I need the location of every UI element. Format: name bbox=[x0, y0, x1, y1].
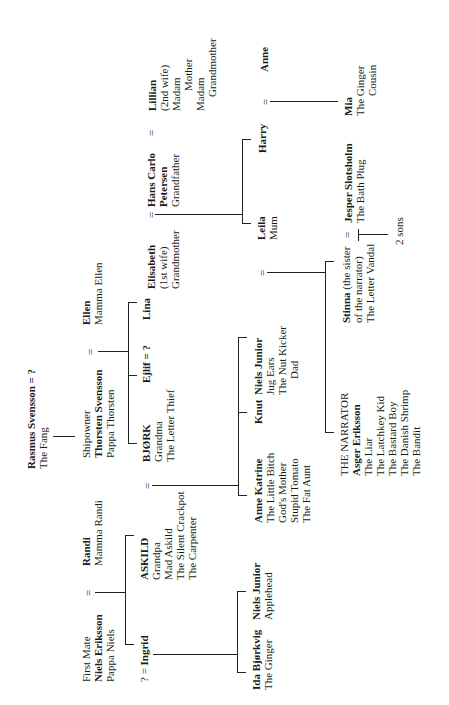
person-narrator: THE NARRATOR Asger Eriksson The Liar The… bbox=[338, 390, 422, 476]
niels-children-bracket bbox=[125, 535, 126, 644]
person-bjork: BJØRK Grandma The Letter Thief bbox=[140, 390, 176, 462]
person-ellen: Ellen Mamma Ellen bbox=[80, 262, 104, 325]
marriage-stinna-jesper: = bbox=[341, 232, 353, 238]
marriage-niels-leila: = bbox=[256, 270, 268, 276]
name: Ellen bbox=[80, 262, 92, 325]
person-leila: Leila Mum bbox=[255, 216, 279, 240]
niels-randi-children-line bbox=[95, 592, 125, 593]
name: Anne Katrine bbox=[252, 453, 264, 523]
name: Ingrid bbox=[138, 635, 150, 665]
thorsten-children-bracket bbox=[128, 302, 129, 443]
tick-ida bbox=[237, 672, 246, 673]
tick-ejlif bbox=[128, 375, 137, 376]
name: Niels Junior bbox=[250, 563, 262, 620]
name: Ejlif = ? bbox=[140, 345, 152, 383]
name: Anne bbox=[258, 47, 270, 72]
askild-bjork-children-bracket bbox=[238, 337, 239, 495]
stinna-jesper-child-line bbox=[358, 229, 359, 241]
person-anne-katrine: Anne Katrine The Little Bitch God's Moth… bbox=[252, 453, 312, 523]
name: Jesper Slotsholm bbox=[342, 143, 354, 223]
person-niels-eriksson: First Mate Niels Eriksson Pappa Niels bbox=[80, 614, 116, 682]
name: Hans Carlo bbox=[145, 153, 157, 207]
person-lillian: Lillian (2nd wife) Madam Mother Madam Gr… bbox=[146, 38, 218, 111]
name: Harry bbox=[256, 124, 268, 153]
name: Rasmus Svensson = ? bbox=[25, 369, 37, 469]
person-hans-carlo: Hans Carlo Petersen Grandfather bbox=[145, 153, 181, 207]
tick-narrator bbox=[325, 432, 334, 433]
person-lina: Lina bbox=[140, 298, 152, 320]
ingrid-children-bracket bbox=[237, 591, 238, 672]
person-niels-junior-applehead: Niels Junior Applehead bbox=[250, 563, 274, 620]
name: Stinna bbox=[340, 292, 352, 323]
name: Niels Eriksson bbox=[92, 614, 104, 682]
tick-leila bbox=[242, 223, 251, 224]
person-mia: Mia The Ginger Cousin bbox=[342, 65, 378, 116]
elisabeth-hans-children-line bbox=[155, 214, 242, 215]
stinna-jesper-sons-line bbox=[358, 234, 388, 235]
name: THE NARRATOR bbox=[338, 390, 350, 476]
niels-leila-children-bracket bbox=[325, 261, 326, 432]
harry-anne-children-line bbox=[270, 101, 338, 102]
thorsten-ellen-children-line bbox=[98, 351, 128, 352]
name: Lina bbox=[140, 298, 152, 320]
tick-askild bbox=[125, 535, 134, 536]
person-rasmus: Rasmus Svensson = ? The Fang bbox=[25, 369, 49, 469]
marriage-askild-bjork: = bbox=[141, 483, 153, 489]
tick-niels-junior bbox=[238, 337, 247, 338]
hans-children-bracket bbox=[242, 139, 243, 223]
person-niels-junior: Niels Junior Jug Ears The Nut Kicker Dad bbox=[252, 326, 300, 395]
tick-ingrid bbox=[125, 644, 134, 645]
person-ejlif: Ejlif = ? bbox=[140, 345, 152, 383]
person-jesper: Jesper Slotsholm The Bath Plug bbox=[342, 143, 366, 223]
person-harry: Harry bbox=[256, 124, 268, 153]
marriage-thorsten-ellen: = bbox=[84, 349, 96, 355]
tick-bjork bbox=[128, 443, 137, 444]
person-anne: Anne bbox=[258, 47, 270, 72]
name: Leila bbox=[255, 216, 267, 240]
person-ida: Ida Bjørkvig The Ginger bbox=[250, 630, 274, 690]
marriage-hans-lillian: = bbox=[145, 130, 157, 136]
name: Elisabeth bbox=[145, 230, 157, 289]
rasmus-to-thorsten-line bbox=[53, 436, 75, 437]
tick-niels-junior-apple bbox=[237, 591, 246, 592]
name: ASKILD bbox=[138, 491, 150, 580]
ingrid-children-line bbox=[153, 654, 237, 655]
marriage-harry-anne: = bbox=[259, 99, 271, 105]
name: Knut bbox=[252, 400, 264, 424]
person-ingrid: ? = Ingrid bbox=[138, 635, 150, 682]
name: Mia bbox=[342, 65, 354, 116]
person-stinna: Stinna (the sister of the narrator) The … bbox=[340, 244, 376, 323]
marriage-niels-randi: = bbox=[82, 590, 94, 596]
askild-bjork-children-line bbox=[152, 485, 238, 486]
person-askild: ASKILD Grandpa Mad Askild The Silent Cra… bbox=[138, 491, 198, 580]
name: Ida Bjørkvig bbox=[250, 630, 262, 690]
tick-lina bbox=[128, 302, 137, 303]
tick-knut bbox=[238, 412, 247, 413]
name: BJØRK bbox=[140, 390, 152, 462]
name: Thorsten Svensson bbox=[92, 370, 104, 458]
label-two-sons: 2 sons bbox=[393, 217, 405, 245]
tick-stinna bbox=[325, 261, 334, 262]
tick-harry bbox=[242, 139, 251, 140]
marriage-elisabeth-hans: = bbox=[145, 212, 157, 218]
person-thorsten: Shipowner Thorsten Svensson Pappa Thorst… bbox=[80, 370, 116, 458]
niels-leila-children-line bbox=[267, 272, 325, 273]
tick-anne-katrine bbox=[238, 495, 247, 496]
name: Niels Junior bbox=[252, 326, 264, 395]
name: Lillian bbox=[146, 38, 158, 111]
person-elisabeth: Elisabeth (1st wife) Grandmother bbox=[145, 230, 181, 289]
name: Randi bbox=[80, 500, 92, 566]
person-randi: Randi Mamma Randi bbox=[80, 500, 104, 566]
person-knut: Knut bbox=[252, 400, 264, 424]
